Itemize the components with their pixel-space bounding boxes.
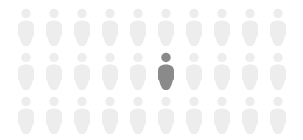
person-icon (236, 96, 264, 136)
person-icon (236, 52, 264, 92)
person-icon (12, 96, 40, 136)
person-icon (124, 8, 152, 48)
person-icon (152, 8, 180, 48)
pictogram-row (0, 8, 303, 52)
person-icon (180, 52, 208, 92)
person-icon (40, 96, 68, 136)
person-icon (40, 52, 68, 92)
person-icon (68, 52, 96, 92)
person-icon (96, 52, 124, 92)
person-icon-highlighted (152, 52, 180, 92)
person-icon (40, 8, 68, 48)
person-icon (96, 96, 124, 136)
person-icon (124, 52, 152, 92)
pictogram-row (0, 52, 303, 96)
person-icon (124, 96, 152, 136)
person-icon (264, 96, 292, 136)
person-icon (208, 8, 236, 48)
person-icon (180, 96, 208, 136)
person-icon (264, 8, 292, 48)
person-icon (264, 52, 292, 92)
person-icon (96, 8, 124, 48)
person-icon (208, 52, 236, 92)
person-icon (68, 96, 96, 136)
pictogram-row (0, 96, 303, 140)
person-icon (152, 96, 180, 136)
person-icon (68, 8, 96, 48)
person-icon (236, 8, 264, 48)
person-icon (180, 8, 208, 48)
person-icon (12, 52, 40, 92)
pictogram-figure (0, 0, 303, 140)
pictogram-grid (0, 0, 303, 140)
person-icon (12, 8, 40, 48)
person-icon (208, 96, 236, 136)
